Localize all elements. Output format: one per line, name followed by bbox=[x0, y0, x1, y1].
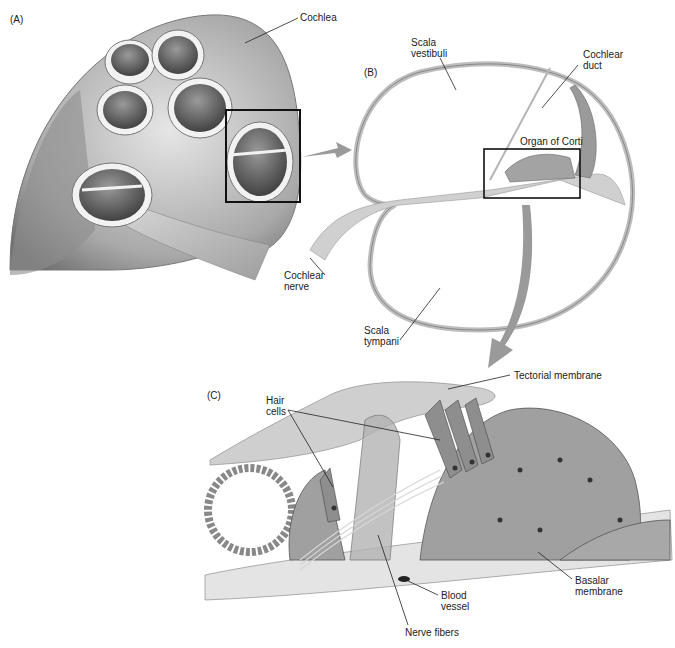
label-scala-tympani: Scala tympani bbox=[364, 325, 399, 347]
arrow-b-to-c bbox=[488, 205, 532, 368]
label-cochlear-nerve: Cochlear nerve bbox=[284, 270, 324, 292]
label-nerve-fibers: Nerve fibers bbox=[405, 627, 459, 638]
label-cochlear-duct: Cochlear duct bbox=[583, 49, 623, 71]
arrow-a-to-b bbox=[302, 142, 352, 158]
label-blood-vessel: Blood vessel bbox=[441, 590, 469, 612]
label-basalar-membrane: Basalar membrane bbox=[575, 575, 623, 597]
panel-label-a: (A) bbox=[10, 14, 23, 25]
panel-a-illustration bbox=[10, 15, 301, 280]
panel-label-b: (B) bbox=[364, 67, 377, 78]
panel-b-illustration bbox=[310, 58, 633, 340]
label-hair-cells: Hair cells bbox=[266, 395, 286, 417]
panel-label-c: (C) bbox=[207, 390, 221, 401]
label-cochlea: Cochlea bbox=[300, 12, 337, 23]
cochlea-diagram bbox=[0, 0, 675, 648]
label-organ-of-corti: Organ of Corti bbox=[520, 136, 583, 147]
label-tectorial-membrane: Tectorial membrane bbox=[514, 370, 602, 381]
label-scala-vestibuli: Scala vestibuli bbox=[411, 37, 447, 59]
